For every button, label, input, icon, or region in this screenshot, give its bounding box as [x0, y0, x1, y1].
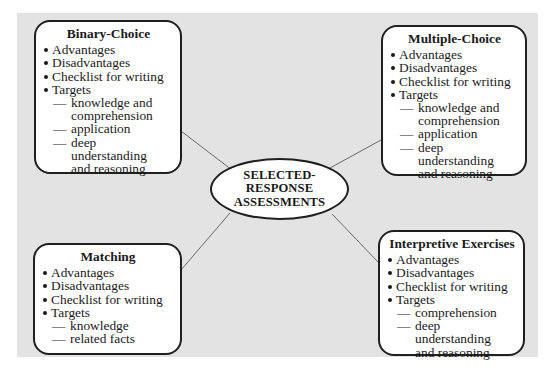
binary-choice-disadvantages: Disadvantages — [43, 56, 174, 69]
binary-choice-box: Binary-Choice Advantages Disadvantages C… — [34, 20, 182, 174]
dash-icon: — — [400, 141, 418, 154]
target-text-continued: and reasoning — [71, 161, 146, 176]
interpretive-exercises-disadvantages: Disadvantages — [387, 266, 517, 279]
central-topic-ellipse: SELECTED- RESPONSE ASSESSMENTS — [210, 158, 349, 220]
target-item: —deep understandingand reasoning — [387, 319, 517, 359]
target-text-continued: and reasoning — [418, 166, 493, 181]
connector-binary-choice — [181, 131, 232, 170]
dash-icon: — — [397, 319, 415, 332]
dash-icon: — — [52, 332, 70, 345]
multiple-choice-box: Multiple-Choice Advantages Disadvantages… — [381, 25, 527, 176]
dash-icon: — — [53, 122, 71, 135]
central-topic-line-3: ASSESSMENTS — [234, 196, 325, 210]
dash-icon: — — [53, 96, 71, 109]
matching-title: Matching — [42, 250, 174, 263]
dash-icon: — — [53, 136, 71, 149]
binary-choice-title: Binary-Choice — [43, 27, 174, 40]
interpretive-exercises-targets-list: —comprehension —deep understandingand re… — [387, 306, 517, 359]
target-item: —application — [390, 127, 519, 140]
target-item: —related facts — [42, 332, 174, 345]
target-item: —deep understandingand reasoning — [43, 136, 174, 176]
target-text-continued: and reasoning — [415, 345, 490, 360]
multiple-choice-title: Multiple-Choice — [390, 32, 519, 45]
target-item: —deep understandingand reasoning — [390, 141, 519, 181]
target-text: deep understanding — [71, 135, 147, 163]
matching-box: Matching Advantages Disadvantages Checkl… — [33, 243, 182, 355]
target-text: deep understanding — [415, 318, 491, 346]
target-item: —application — [43, 122, 174, 135]
connector-matching — [181, 213, 230, 270]
matching-targets-list: —knowledge —related facts — [42, 319, 174, 345]
central-topic-line-1: SELECTED- — [243, 169, 315, 183]
binary-choice-targets-list: —knowledge andcomprehension —application… — [43, 96, 174, 175]
connector-interpretive-exercises — [332, 214, 378, 262]
multiple-choice-targets-list: —knowledge andcomprehension —application… — [390, 101, 519, 180]
matching-disadvantages: Disadvantages — [42, 279, 174, 292]
dash-icon: — — [400, 127, 418, 140]
target-text: deep understanding — [418, 140, 494, 168]
interpretive-exercises-title: Interpretive Exercises — [387, 237, 517, 250]
target-text: related facts — [70, 331, 135, 346]
central-topic-line-2: RESPONSE — [246, 182, 313, 196]
target-item: —knowledge andcomprehension — [43, 96, 174, 122]
target-item: —knowledge andcomprehension — [390, 101, 519, 127]
connector-multiple-choice — [330, 140, 381, 168]
dash-icon: — — [400, 101, 418, 114]
multiple-choice-disadvantages: Disadvantages — [390, 61, 519, 74]
interpretive-exercises-box: Interpretive Exercises Advantages Disadv… — [378, 230, 525, 356]
